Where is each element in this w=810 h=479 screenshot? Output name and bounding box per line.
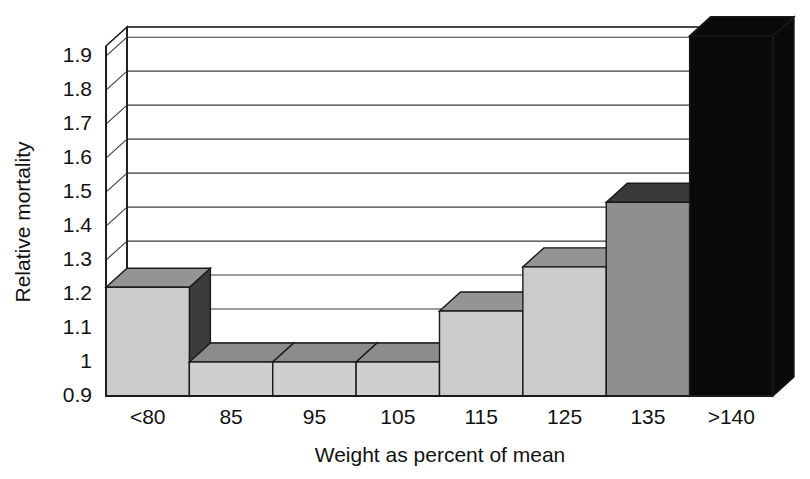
bar-chart-3d: 1.91.81.71.61.51.41.31.21.110.9 <8085951… — [0, 0, 810, 479]
y-axis-tick-label: 1.4 — [63, 213, 93, 236]
x-axis-tick-label: 125 — [547, 405, 582, 428]
bar-140 — [690, 17, 794, 396]
bar-front-face — [690, 36, 773, 396]
x-axis-tick-label: 135 — [630, 405, 665, 428]
bar-side-face — [773, 17, 794, 396]
y-axis-tick-label: 1.5 — [63, 179, 92, 202]
x-axis-tick-label: 95 — [303, 405, 326, 428]
x-axis-tick-label: 105 — [380, 405, 415, 428]
y-axis-tick-label: 1.9 — [63, 43, 92, 66]
y-axis-tick-label: 1.7 — [63, 111, 92, 134]
bar-front-face — [356, 362, 439, 396]
bar-front-face — [523, 267, 606, 396]
y-axis-ticks: 1.91.81.71.61.51.41.31.21.110.9 — [63, 43, 93, 406]
wall-tick-line — [106, 241, 127, 260]
chart-container: 1.91.81.71.61.51.41.31.21.110.9 <8085951… — [0, 0, 810, 479]
x-axis-ticks: <808595105115125135>140 — [130, 405, 755, 428]
bar-front-face — [273, 362, 356, 396]
wall-tick-line — [106, 37, 127, 56]
bar-front-face — [606, 202, 689, 396]
y-axis-tick-label: 1.2 — [63, 281, 92, 304]
x-axis-tick-label: >140 — [708, 405, 755, 428]
wall-tick-line — [106, 105, 127, 124]
wall-tick-line — [106, 207, 127, 226]
y-axis-tick-label: 0.9 — [63, 383, 92, 406]
wall-tick-line — [106, 71, 127, 90]
x-axis-tick-label: 85 — [219, 405, 242, 428]
bar-front-face — [106, 287, 189, 396]
wall-tick-line — [106, 173, 127, 192]
y-axis-tick-label: 1.8 — [63, 77, 92, 100]
y-axis-tick-label: 1.6 — [63, 145, 92, 168]
y-axis-tick-label: 1.3 — [63, 247, 92, 270]
y-axis-tick-label: 1.1 — [63, 315, 92, 338]
x-axis-tick-label: 115 — [464, 405, 497, 428]
x-axis-title: Weight as percent of mean — [315, 443, 566, 466]
y-axis-tick-label: 1 — [80, 349, 92, 372]
bar-front-face — [440, 311, 523, 396]
y-axis-title: Relative mortality — [11, 141, 34, 303]
wall-tick-line — [106, 139, 127, 158]
bar-front-face — [189, 362, 272, 396]
x-axis-tick-label: <80 — [130, 405, 166, 428]
